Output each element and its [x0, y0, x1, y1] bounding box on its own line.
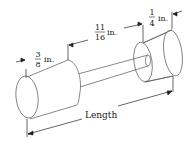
- svg-text:1: 1: [149, 8, 154, 17]
- svg-text:8: 8: [35, 60, 40, 69]
- svg-text:in.: in.: [158, 14, 168, 23]
- left-cylinder: [14, 60, 81, 119]
- svg-text:in.: in.: [107, 28, 117, 37]
- dimension-length: [27, 76, 173, 137]
- svg-text:3: 3: [35, 50, 40, 59]
- label-right-width: 1 4 in.: [149, 8, 168, 28]
- right-cylinder: [131, 29, 185, 83]
- label-gap: 11 16 in.: [95, 23, 117, 42]
- label-length: Length: [85, 110, 117, 120]
- svg-text:11: 11: [95, 23, 105, 32]
- svg-text:16: 16: [95, 33, 105, 42]
- svg-text:4: 4: [149, 19, 154, 28]
- dumbbell-diagram: 3 8 in. 11 16 in. 1 4 in. Length: [0, 0, 195, 147]
- svg-text:in.: in.: [44, 55, 54, 64]
- label-left-width: 3 8 in.: [35, 50, 54, 69]
